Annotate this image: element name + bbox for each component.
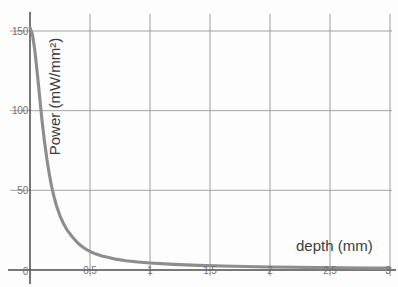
x-tick-label-2: 2 [258,265,282,276]
x-tick-label-2_5: 2.5 [318,265,342,276]
y-tick-label-50: 50 [2,185,28,196]
y-tick-label-100: 100 [2,105,28,116]
y-tick-label-0: 0 [2,266,28,287]
x-tick-label-1_5: 1.5 [198,265,222,276]
x-tick-label-3: 3 [376,265,398,276]
chart-figure: 150 100 50 0 0.5 1 1.5 2 2.5 3 Power (mW… [0,0,398,287]
y-axis-title: Power (mW/mm²) [46,17,63,177]
y-tick-label-150: 150 [2,26,28,37]
horizontal-gridlines [10,31,392,190]
x-tick-label-0_5: 0.5 [78,265,102,276]
x-tick-label-1: 1 [138,265,162,276]
plot-area: 150 100 50 0 0.5 1 1.5 2 2.5 3 Power (mW… [0,0,398,287]
x-axis-title: depth (mm) [296,237,373,254]
